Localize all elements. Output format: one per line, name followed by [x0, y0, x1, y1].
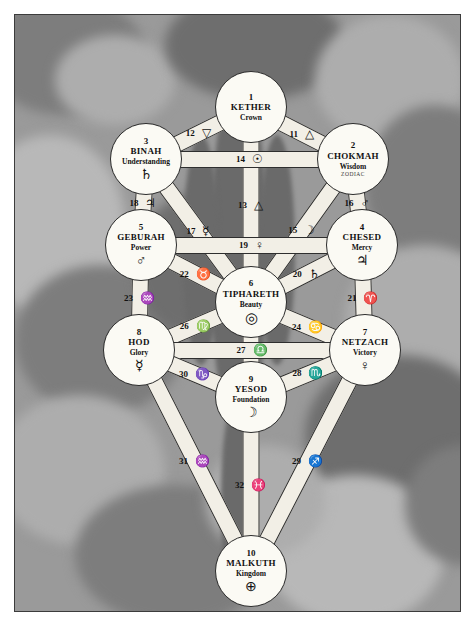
path-number: 13 — [239, 200, 248, 209]
sephirah-title: Crown — [240, 113, 262, 122]
tree-of-life: 11△12▽13△14☉15☽16♂17☿18♃19♀20♄21♈22♉23♒2… — [15, 15, 460, 611]
sephirah-number: 7 — [363, 327, 368, 337]
path-symbol-15: ☽ — [305, 224, 316, 236]
sephirah-number: 2 — [351, 140, 356, 150]
sephirah-symbol-7: ♀ — [360, 359, 371, 373]
sephirah-symbol-6: ◎ — [245, 311, 258, 326]
sephirah-chokmah: 2CHOKMAHWisdomZODIAC — [317, 123, 389, 195]
sephirah-number: 9 — [249, 374, 254, 384]
sephirah-name: YESOD — [235, 384, 268, 395]
sephirah-subtext: ZODIAC — [341, 171, 365, 178]
path-symbol-16: ♂ — [361, 196, 370, 208]
sephirah-symbol-9: ☽ — [245, 406, 258, 420]
path-number: 27 — [237, 346, 246, 355]
sephirah-name: GEBURAH — [117, 232, 165, 243]
path-symbol-29: ♐ — [309, 454, 324, 466]
path-number: 14 — [236, 155, 245, 164]
sephirah-title: Kingdom — [236, 569, 266, 578]
path-symbol-32: ♓ — [252, 478, 267, 490]
sephirah-kether: 1KETHERCrown — [215, 71, 287, 143]
sephirah-title: Foundation — [232, 395, 269, 404]
sephirah-symbol-3: ♄ — [140, 168, 153, 182]
sephirah-title: Beauty — [240, 300, 263, 309]
sephirah-yesod: 9YESODFoundation☽ — [215, 361, 287, 433]
path-number: 15 — [289, 226, 298, 235]
path-number: 31 — [179, 456, 188, 465]
path-number: 21 — [348, 293, 357, 302]
sephirah-hod: 8HODGlory☿ — [103, 314, 175, 386]
path-symbol-22: ♉ — [196, 267, 211, 279]
sephirah-name: NETZACH — [342, 337, 389, 348]
path-symbol-31: ♒ — [195, 454, 210, 466]
path-symbol-27: ♎ — [253, 344, 268, 356]
sephirah-name: HOD — [128, 337, 149, 348]
sephirah-title: Wisdom — [340, 162, 367, 171]
sephirah-title: Glory — [130, 348, 149, 357]
sephirah-binah: 3BINAHUnderstanding♄ — [110, 123, 182, 195]
sephirah-title: Mercy — [352, 243, 373, 252]
sephirah-name: TIPHARETH — [223, 289, 280, 300]
path-symbol-14: ☉ — [252, 153, 263, 165]
sephirah-tiphareth: 6TIPHARETHBeauty◎ — [215, 266, 287, 338]
path-symbol-12: ▽ — [202, 127, 211, 139]
sephirah-number: 5 — [139, 222, 144, 232]
path-number: 28 — [293, 369, 302, 378]
sephirah-chesed: 4CHESEDMercy♃ — [326, 209, 398, 281]
sephirah-symbol-8: ☿ — [135, 359, 144, 373]
sephirah-name: CHESED — [343, 232, 382, 243]
sephirah-name: BINAH — [130, 146, 161, 157]
path-symbol-23: ♒ — [141, 291, 156, 303]
path-symbol-28: ♏ — [309, 367, 324, 379]
path-symbol-24: ♋ — [308, 320, 323, 332]
path-symbol-26: ♍ — [196, 320, 211, 332]
sephirah-geburah: 5GEBURAHPower♂ — [105, 209, 177, 281]
sephirah-number: 3 — [144, 136, 149, 146]
path-number: 30 — [179, 369, 188, 378]
path-number: 32 — [236, 480, 245, 489]
sephirah-symbol-10: ⊕ — [245, 580, 257, 594]
sephirah-title: Power — [131, 243, 151, 252]
path-number: 29 — [293, 456, 302, 465]
path-symbol-17: ☿ — [203, 224, 210, 236]
screenshot-root: 11△12▽13△14☉15☽16♂17☿18♃19♀20♄21♈22♉23♒2… — [0, 0, 473, 624]
sephirah-number: 1 — [249, 92, 254, 102]
path-number: 19 — [239, 241, 248, 250]
sephirah-title: Understanding — [122, 157, 170, 166]
sephirah-netzach: 7NETZACHVictory♀ — [329, 314, 401, 386]
sephirah-symbol-4: ♃ — [356, 254, 369, 268]
path-number: 11 — [290, 128, 299, 137]
path-number: 17 — [187, 226, 196, 235]
sephirah-name: KETHER — [231, 102, 271, 113]
path-number: 23 — [125, 293, 134, 302]
path-number: 26 — [180, 321, 189, 330]
sephirah-name: CHOKMAH — [327, 151, 379, 162]
path-number: 20 — [293, 269, 302, 278]
path-number: 18 — [130, 197, 139, 206]
sephirah-number: 6 — [249, 278, 254, 288]
sephirah-number: 10 — [247, 548, 256, 558]
path-symbol-19: ♀ — [255, 239, 264, 251]
path-number: 12 — [186, 128, 195, 137]
path-number: 24 — [292, 321, 301, 330]
sephirah-number: 4 — [360, 222, 365, 232]
sephirah-title: Victory — [353, 348, 377, 357]
sephirah-symbol-5: ♂ — [136, 254, 147, 268]
path-number: 16 — [345, 197, 354, 206]
diagram-plate: 11△12▽13△14☉15☽16♂17☿18♃19♀20♄21♈22♉23♒2… — [14, 14, 461, 612]
sephirah-number: 8 — [137, 327, 142, 337]
path-symbol-13: △ — [255, 199, 264, 211]
path-symbol-11: △ — [305, 127, 314, 139]
path-symbol-18: ♃ — [146, 196, 157, 208]
path-number: 22 — [180, 269, 189, 278]
sephirah-name: MALKUTH — [226, 558, 276, 569]
path-symbol-20: ♄ — [309, 267, 320, 279]
path-symbol-30: ♑ — [195, 367, 210, 379]
sephirah-malkuth: 10MALKUTHKingdom⊕ — [215, 535, 287, 607]
path-symbol-21: ♈ — [364, 291, 379, 303]
